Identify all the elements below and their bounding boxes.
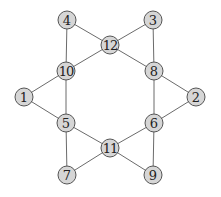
node-8: 8 xyxy=(145,62,163,80)
node-5: 5 xyxy=(57,114,75,132)
node-4: 4 xyxy=(58,11,76,29)
node-label: 10 xyxy=(59,64,74,79)
node-label: 9 xyxy=(149,168,157,183)
node-label: 7 xyxy=(63,168,71,183)
node-7: 7 xyxy=(58,166,76,184)
node-label: 12 xyxy=(103,38,118,53)
node-9: 9 xyxy=(144,166,162,184)
node-label: 5 xyxy=(62,116,70,131)
node-2: 2 xyxy=(187,88,205,106)
node-6: 6 xyxy=(145,114,163,132)
node-label: 11 xyxy=(103,141,118,156)
node-label: 8 xyxy=(150,64,158,79)
graph-svg: 123456789101112 xyxy=(0,0,221,197)
node-3: 3 xyxy=(144,11,162,29)
node-label: 1 xyxy=(20,90,28,105)
node-label: 3 xyxy=(149,13,157,28)
nodes-layer: 123456789101112 xyxy=(15,11,205,184)
node-label: 6 xyxy=(150,116,158,131)
node-10: 10 xyxy=(57,62,75,80)
node-label: 2 xyxy=(192,90,200,105)
graph-diagram: 123456789101112 xyxy=(0,0,221,197)
node-1: 1 xyxy=(15,88,33,106)
node-label: 4 xyxy=(63,13,71,28)
node-12: 12 xyxy=(101,36,119,54)
node-11: 11 xyxy=(101,139,119,157)
